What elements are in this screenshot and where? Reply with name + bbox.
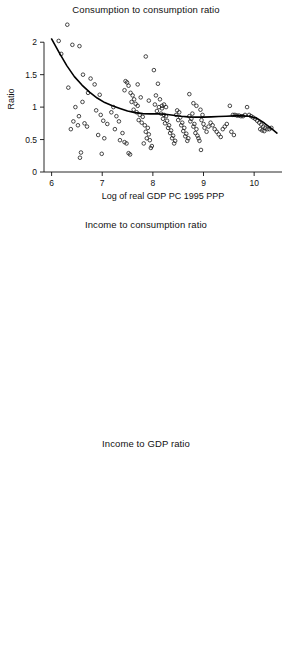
data-point [153, 103, 157, 107]
data-point [83, 122, 87, 126]
data-point [118, 138, 122, 142]
data-point [201, 113, 205, 117]
data-point [207, 125, 211, 129]
data-point [121, 131, 125, 135]
data-point [156, 82, 160, 86]
data-point [195, 104, 199, 108]
data-point [85, 125, 89, 129]
data-point [147, 133, 151, 137]
data-point [192, 101, 196, 105]
data-point [161, 117, 165, 121]
data-point [71, 43, 75, 47]
data-point [195, 127, 199, 131]
panel-consumption-to-consumption: Consumption to consumption ratio 6789100… [0, 0, 292, 215]
data-point [69, 127, 73, 131]
data-point [139, 96, 143, 100]
data-point [158, 98, 162, 102]
data-point [117, 120, 121, 124]
data-point [81, 73, 85, 77]
data-point [130, 100, 134, 104]
data-point [143, 123, 147, 127]
data-point [142, 142, 146, 146]
y-tick-label: 1.5 [25, 70, 37, 80]
data-point [110, 111, 114, 115]
data-point [77, 114, 81, 118]
data-point [188, 92, 192, 96]
data-point [89, 77, 93, 81]
data-point [152, 68, 156, 72]
data-point [123, 88, 127, 92]
data-point [94, 109, 98, 113]
data-point [137, 118, 141, 122]
data-point [78, 44, 82, 48]
data-point [245, 105, 249, 109]
data-point [57, 39, 61, 43]
data-point [76, 123, 80, 127]
data-point [132, 108, 136, 112]
y-axis-label: Ratio [6, 88, 16, 109]
plot-area: 67891000.511.52Log of real GDP PC 1995 P… [0, 0, 292, 215]
x-axis-label: Log of real GDP PC 1995 PPP [102, 191, 224, 201]
y-tick-label: 1 [32, 102, 37, 112]
data-point [200, 118, 204, 122]
data-point [79, 151, 83, 155]
plot-area: 67891000.511.52Log of real GDP PC 1995 P… [0, 430, 292, 645]
data-point [93, 83, 97, 87]
data-point [115, 114, 119, 118]
x-tick-label: 6 [49, 178, 54, 188]
data-point [219, 135, 223, 139]
y-tick-label: 2 [32, 37, 37, 47]
data-point [144, 55, 148, 59]
data-point [99, 113, 103, 117]
fit-line [52, 39, 277, 133]
panel-income-to-consumption: Income to consumption ratio 67891000.511… [0, 215, 292, 430]
data-point [102, 136, 106, 140]
data-point [72, 120, 76, 124]
data-point [74, 105, 78, 109]
data-point [164, 105, 168, 109]
data-point [96, 133, 100, 137]
panel-income-to-gdp: Income to GDP ratio 67891000.511.52Log o… [0, 430, 292, 645]
y-tick-label: 0 [32, 167, 37, 177]
data-point [199, 108, 203, 112]
data-point [101, 119, 105, 123]
data-point [203, 126, 207, 130]
y-tick-label: 0.5 [25, 135, 37, 145]
data-point [113, 127, 117, 131]
data-point [65, 23, 69, 27]
data-point [202, 122, 206, 126]
data-point [146, 126, 150, 130]
data-point [67, 86, 71, 90]
data-point [228, 104, 232, 108]
data-point [205, 130, 209, 134]
data-point [140, 121, 144, 125]
data-point [78, 156, 82, 160]
data-point [131, 94, 135, 98]
data-point [148, 138, 152, 142]
data-point [176, 118, 180, 122]
x-tick-label: 7 [100, 178, 105, 188]
x-tick-label: 10 [249, 178, 259, 188]
data-point [155, 109, 159, 113]
data-point [127, 84, 131, 88]
data-point [100, 152, 104, 156]
data-point [147, 99, 151, 103]
x-tick-label: 8 [151, 178, 156, 188]
data-point [141, 115, 145, 119]
data-point [136, 83, 140, 87]
data-point [181, 129, 185, 133]
data-point [163, 122, 167, 126]
x-tick-label: 9 [201, 178, 206, 188]
data-point [230, 130, 234, 134]
data-point [199, 148, 203, 152]
data-point [81, 100, 85, 104]
data-point [232, 133, 236, 137]
three-panel-scatter-figure: Consumption to consumption ratio 6789100… [0, 0, 292, 645]
data-point [98, 93, 102, 97]
data-point [106, 122, 110, 126]
data-point [225, 122, 229, 126]
data-point [144, 130, 148, 134]
data-point [191, 112, 195, 116]
plot-area: 67891000.511.52Log of real GDP PC 1995 P… [0, 215, 292, 430]
data-point [154, 94, 158, 98]
